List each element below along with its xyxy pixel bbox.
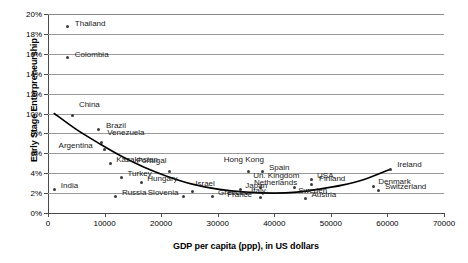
data-point-label: Italy xyxy=(251,186,266,195)
x-tick-label: 30000 xyxy=(207,219,229,228)
x-tick-mark xyxy=(161,213,162,217)
data-point-label: Hong Kong xyxy=(224,155,264,164)
data-point-marker xyxy=(389,168,392,171)
data-point-label: Venezuela xyxy=(107,128,144,137)
x-tick-mark xyxy=(444,213,445,217)
data-point-label: Switzerland xyxy=(385,182,426,191)
data-point-marker xyxy=(310,178,313,181)
y-tick-label: 8% xyxy=(30,129,42,138)
data-point-label: Finland xyxy=(319,174,345,183)
y-tick-label: 0% xyxy=(30,209,42,218)
x-tick-mark xyxy=(274,213,275,217)
y-tick-label: 4% xyxy=(30,169,42,178)
data-point-label: Portugal xyxy=(137,156,167,165)
y-tick-label: 2% xyxy=(30,189,42,198)
y-tick-label: 18% xyxy=(26,29,42,38)
data-point-label: Hungary xyxy=(147,174,177,183)
y-tick-label: 14% xyxy=(26,69,42,78)
data-point-label: Colombia xyxy=(75,50,109,59)
x-tick-mark xyxy=(218,213,219,217)
data-point-marker xyxy=(168,170,171,173)
data-point-label: Argentina xyxy=(59,141,93,150)
data-point-marker xyxy=(53,188,56,191)
data-point-label: Netherlands xyxy=(254,178,297,187)
data-point-marker xyxy=(100,141,103,144)
data-point-marker xyxy=(103,148,106,151)
x-tick-mark xyxy=(387,213,388,217)
x-tick-mark xyxy=(331,213,332,217)
data-point-label: France xyxy=(227,190,252,199)
data-point-label: Austria xyxy=(311,190,336,199)
data-point-marker xyxy=(109,162,112,165)
data-point-marker xyxy=(259,196,262,199)
x-tick-mark xyxy=(105,213,106,217)
y-tick-label: 6% xyxy=(30,149,42,158)
x-tick-label: 0 xyxy=(46,219,50,228)
x-axis-line xyxy=(48,213,445,214)
data-point-marker xyxy=(304,197,307,200)
x-tick-label: 20000 xyxy=(150,219,172,228)
plot-area: 0%2%4%6%8%10%12%14%16%18%20% 01000020000… xyxy=(48,14,444,213)
x-tick-label: 40000 xyxy=(263,219,285,228)
x-axis-title: GDP per capita (ppp), in US dollars xyxy=(48,241,444,251)
data-point-marker xyxy=(140,181,143,184)
x-tick-label: 10000 xyxy=(93,219,115,228)
y-tick-label: 16% xyxy=(26,49,42,58)
data-point-label: Russia xyxy=(122,188,146,197)
data-point-marker xyxy=(120,176,123,179)
x-tick-label: 50000 xyxy=(320,219,342,228)
y-tick-label: 12% xyxy=(26,89,42,98)
data-point-label: Ireland xyxy=(397,160,421,169)
x-tick-label: 60000 xyxy=(376,219,398,228)
y-tick-label: 10% xyxy=(26,109,42,118)
data-point-label: Israel xyxy=(195,179,215,188)
data-point-marker xyxy=(211,195,214,198)
data-point-marker xyxy=(182,195,185,198)
data-point-label: China xyxy=(79,100,100,109)
scatter-chart: Early Stage Enterpreneurship GDP per cap… xyxy=(0,0,468,263)
x-tick-mark xyxy=(48,213,49,217)
x-tick-label: 70000 xyxy=(433,219,455,228)
data-point-label: Slovenia xyxy=(148,188,179,197)
data-point-marker xyxy=(372,185,375,188)
data-point-label: Thailand xyxy=(75,19,106,28)
data-point-marker xyxy=(191,190,194,193)
data-point-label: India xyxy=(61,181,78,190)
y-tick-label: 20% xyxy=(26,10,42,19)
